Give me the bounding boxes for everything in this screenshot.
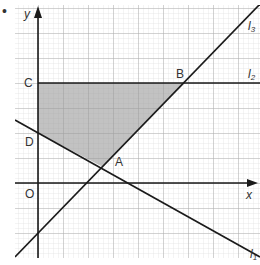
point-label-a: A (115, 156, 123, 168)
point-label-c: C (24, 77, 33, 89)
point-label-d: D (25, 136, 34, 148)
line-label-l2: l2 (248, 68, 255, 82)
grid (15, 4, 260, 258)
line-label-l1: l1 (250, 248, 257, 262)
origin-label: O (25, 188, 34, 200)
point-label-b: B (176, 68, 184, 80)
coordinate-graph (0, 0, 260, 265)
x-axis-label: x (246, 189, 252, 201)
line-label-l3: l3 (248, 20, 255, 34)
y-axis-label: y (24, 8, 30, 20)
